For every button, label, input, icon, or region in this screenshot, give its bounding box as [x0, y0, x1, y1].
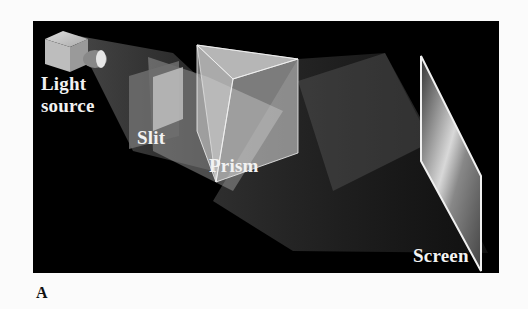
- figure-panel-label: A: [36, 284, 48, 302]
- label-slit: Slit: [137, 128, 165, 148]
- label-prism: Prism: [209, 156, 259, 176]
- spectroscope-illustration: [33, 21, 499, 273]
- light-source-icon: [45, 31, 107, 72]
- diagram-panel: Light source Slit Prism Screen: [33, 21, 499, 273]
- label-screen: Screen: [413, 246, 469, 266]
- label-light-source-line1: Light: [41, 74, 86, 94]
- label-light-source-line2: source: [41, 96, 95, 116]
